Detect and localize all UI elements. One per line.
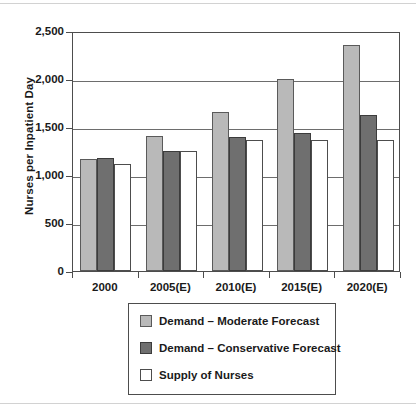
x-tick-mark bbox=[72, 272, 73, 278]
x-tick-label: 2015(E) bbox=[267, 281, 337, 293]
bar-2005E-s0 bbox=[146, 136, 163, 271]
bar-2005E-s2 bbox=[180, 151, 197, 271]
bar-2020E-s0 bbox=[343, 45, 360, 271]
chart-legend: Demand – Moderate Forecast Demand – Cons… bbox=[128, 303, 336, 395]
x-tick-mark bbox=[334, 272, 335, 278]
bar-2000-s2 bbox=[114, 164, 131, 271]
x-tick-label: 2010(E) bbox=[201, 281, 271, 293]
bar-2010E-s0 bbox=[212, 112, 229, 271]
legend-item-supply: Supply of Nurses bbox=[140, 369, 254, 381]
legend-item-conservative: Demand – Conservative Forecast bbox=[140, 342, 341, 354]
x-tick-label: 2020(E) bbox=[332, 281, 402, 293]
bar-chart-figure: Nurses per Inpatient Day 05001,0001,5002… bbox=[0, 0, 416, 409]
bar-2000-s1 bbox=[97, 158, 114, 271]
bar-2015E-s0 bbox=[277, 79, 294, 271]
legend-label-conservative: Demand – Conservative Forecast bbox=[159, 342, 341, 354]
x-tick-label: 2005(E) bbox=[135, 281, 205, 293]
x-tick-mark bbox=[269, 272, 270, 278]
bar-2000-s0 bbox=[80, 159, 97, 271]
bar-2015E-s1 bbox=[294, 133, 311, 271]
legend-item-moderate: Demand – Moderate Forecast bbox=[140, 315, 319, 327]
bar-2020E-s2 bbox=[377, 140, 394, 271]
bar-2010E-s1 bbox=[229, 137, 246, 271]
legend-label-supply: Supply of Nurses bbox=[159, 369, 254, 381]
x-tick-mark bbox=[400, 272, 401, 278]
bar-2020E-s1 bbox=[360, 115, 377, 271]
x-tick-label: 2000 bbox=[70, 281, 140, 293]
x-tick-mark bbox=[138, 272, 139, 278]
legend-swatch-conservative bbox=[140, 342, 152, 354]
bar-2015E-s2 bbox=[311, 140, 328, 271]
legend-label-moderate: Demand – Moderate Forecast bbox=[159, 315, 319, 327]
legend-swatch-moderate bbox=[140, 315, 152, 327]
bar-2010E-s2 bbox=[246, 140, 263, 271]
bar-2005E-s1 bbox=[163, 151, 180, 271]
legend-swatch-supply bbox=[140, 369, 152, 381]
x-tick-mark bbox=[203, 272, 204, 278]
